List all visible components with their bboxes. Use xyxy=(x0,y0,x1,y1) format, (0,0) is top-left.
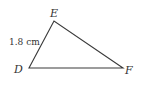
triangle-diagram: E D F 1.8 cm xyxy=(0,0,141,86)
vertex-label-f: F xyxy=(124,64,133,77)
triangle-def xyxy=(29,21,123,68)
side-de-length-label: 1.8 cm xyxy=(9,37,40,47)
vertex-label-d: D xyxy=(13,63,23,76)
vertex-label-e: E xyxy=(49,7,58,20)
